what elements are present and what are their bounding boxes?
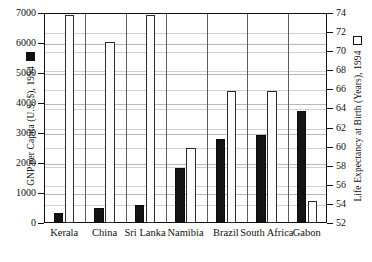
bars-layer: [44, 13, 327, 223]
right-axis-label-text: Life Expectancy at Birth (Years), 1994: [353, 50, 363, 201]
right-axis-tick-label: 70: [336, 46, 346, 56]
right-axis-tick: [327, 185, 333, 186]
right-axis-tick-label: 64: [336, 103, 346, 113]
right-axis-tick-label: 66: [336, 84, 346, 94]
left-axis-tick-label: 7000: [16, 8, 36, 18]
category-axis-labels: KeralaChinaSri LankaNamibiaBrazilSouth A…: [44, 227, 327, 247]
left-axis-tick-label: 5000: [16, 68, 36, 78]
right-axis-title: Life Expectancy at Birth (Years), 1994: [353, 19, 363, 219]
right-axis-tick-label: 62: [336, 123, 346, 133]
right-axis-tick-label: 74: [336, 8, 346, 18]
category-label: Gabon: [281, 227, 333, 239]
right-axis-tick: [327, 70, 333, 71]
left-axis-tick: [38, 223, 44, 224]
left-axis-tick-label: 1000: [16, 188, 36, 198]
right-axis-tick: [327, 51, 333, 52]
right-axis-tick: [327, 32, 333, 33]
left-axis-tick-label: 0: [31, 218, 36, 228]
right-axis-tick: [327, 147, 333, 148]
right-axis-tick-label: 58: [336, 161, 346, 171]
life-expectancy-legend-swatch-icon: [353, 36, 362, 45]
left-axis-tick-label: 2000: [16, 158, 36, 168]
right-axis-tick: [327, 13, 333, 14]
left-axis-tick-label: 3000: [16, 128, 36, 138]
bar-group: [44, 13, 327, 223]
left-axis-tick-label: 6000: [16, 38, 36, 48]
right-axis-tick: [327, 166, 333, 167]
life-expectancy-bar: [308, 201, 318, 223]
right-axis-tick-label: 72: [336, 27, 346, 37]
left-axis-title: GNP per Capita (U.S. $), 1994: [26, 24, 36, 214]
right-axis-tick: [327, 128, 333, 129]
left-axis-tick-label: 4000: [16, 98, 36, 108]
right-axis-tick-label: 52: [336, 218, 346, 228]
right-axis-tick-label: 60: [336, 142, 346, 152]
right-axis-tick-label: 56: [336, 180, 346, 190]
chart-figure: GNP per Capita (U.S. $), 1994 Life Expec…: [0, 0, 372, 262]
right-axis-tick: [327, 89, 333, 90]
gnp-bar: [297, 111, 307, 224]
gnp-legend-swatch-icon: [26, 52, 35, 61]
right-axis-tick: [327, 204, 333, 205]
right-axis-tick-label: 54: [336, 199, 346, 209]
right-axis-tick: [327, 223, 333, 224]
right-axis-tick: [327, 108, 333, 109]
right-axis-tick-label: 68: [336, 65, 346, 75]
